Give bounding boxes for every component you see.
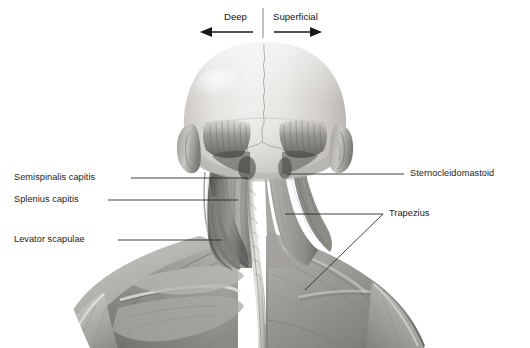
right-ear <box>329 124 353 173</box>
left-ear <box>177 124 201 173</box>
label-semispinalis-capitis: Semispinalis capitis <box>14 172 95 183</box>
superficial-label: Superficial <box>273 11 318 22</box>
deep-label: Deep <box>224 11 247 22</box>
label-splenius-capitis: Splenius capitis <box>14 194 79 205</box>
anatomy-figure: Deep Superficial Semispinalis capitis Sp… <box>0 0 530 348</box>
cranium <box>184 42 346 182</box>
label-levator-scapulae: Levator scapulae <box>14 234 85 245</box>
label-trapezius: Trapezius <box>389 208 429 219</box>
label-sternocleidomastoid: Sternocleidomastoid <box>410 168 494 179</box>
